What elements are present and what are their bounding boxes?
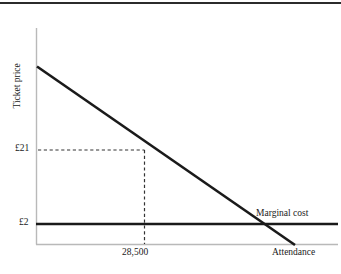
figure-page: Ticket price £21 £2 28,500 Marginal cost… (0, 0, 341, 274)
marginal-cost-series-label: Marginal cost (256, 209, 308, 219)
x-axis-title: Attendance (272, 248, 315, 258)
y-tick-label-marginal-cost: £2 (19, 218, 29, 228)
y-axis-title-container: Ticket price (22, 28, 34, 108)
y-tick-label-price: £21 (15, 144, 29, 154)
y-axis-title: Ticket price (13, 63, 23, 108)
x-tick-label-attendance: 28,500 (122, 248, 148, 258)
economics-figure: Ticket price £21 £2 28,500 Marginal cost… (0, 0, 341, 274)
plot-canvas (0, 0, 341, 274)
